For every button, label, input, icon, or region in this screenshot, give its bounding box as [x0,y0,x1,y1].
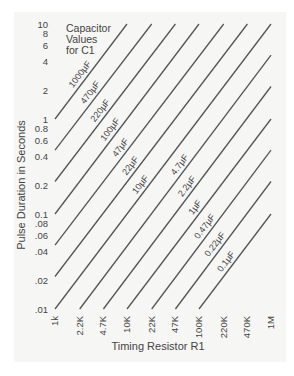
y-tick-label: .02 [35,275,48,286]
y-tick-label: 2 [43,85,48,96]
capacitor-label: 10µF [130,173,151,196]
capacitor-label: 47µF [110,136,131,159]
y-tick-label: 0.8 [35,123,48,134]
x-tick-label: 1k [49,316,60,326]
x-tick-label: 4.7K [97,315,108,335]
y-tick-label: .04 [35,246,48,257]
capacitor-line [80,55,271,309]
capacitor-line [175,182,271,310]
y-tick-label: 0.4 [35,151,48,162]
x-tick-label: 10K [121,315,132,333]
x-axis-ticks: 1k2.2K4.7K10K22K47K100K220K470K1M [49,315,276,338]
y-tick-label: .06 [35,230,48,241]
x-tick-label: 470K [241,315,252,338]
capacitor-line [127,119,271,309]
capacitor-line [103,87,271,310]
y-tick-label: 0.2 [35,180,48,191]
y-axis-ticks: 10864210.80.60.40.20.1.08.06.04.02.01 [35,19,48,315]
x-tick-label: 2.2K [74,315,85,335]
y-tick-label: 4 [43,56,48,67]
x-tick-label: 1M [265,316,276,329]
legend-title: CapacitorValuesfor C1 [66,22,111,56]
y-tick-label: 8 [43,28,48,39]
x-tick-label: 47K [169,315,180,333]
y-tick-label: .08 [35,218,48,229]
capacitor-line [199,214,271,309]
capacitor-label: 1µF [186,198,204,217]
y-axis-label: Pulse Duration in Seconds [15,120,27,250]
chart-plot: 1000µF470µF220µF100µF47µF22µF10µF4.7µF2.… [0,0,294,376]
y-tick-label: .01 [35,304,48,315]
x-axis-label: Timing Resistor R1 [111,340,204,352]
capacitor-label: 22µF [120,154,141,177]
x-tick-label: 100K [193,315,204,338]
x-tick-label: 220K [218,315,229,338]
x-tick-label: 22K [146,315,157,333]
y-tick-label: 6 [43,40,48,51]
pulse-duration-chart: 1000µF470µF220µF100µF47µF22µF10µF4.7µF2.… [0,0,294,376]
capacitor-line [55,24,224,245]
y-tick-label: 0.6 [35,135,48,146]
legend-title-line: for C1 [66,44,95,56]
capacitor-line [152,150,271,309]
